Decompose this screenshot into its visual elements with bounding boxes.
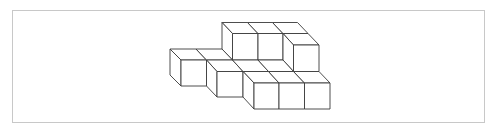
cube-structure-diagram: [0, 0, 497, 134]
cube-front-face: [258, 34, 283, 61]
cube-front-face: [233, 34, 259, 61]
cube-front-face: [279, 83, 305, 109]
cube-front-face: [217, 72, 243, 98]
cube-group-front-row: [243, 72, 330, 110]
cube-front-face: [294, 45, 320, 72]
cube-front-face: [181, 60, 207, 86]
cube-front-face: [305, 83, 331, 109]
cube-front-face: [254, 83, 279, 109]
